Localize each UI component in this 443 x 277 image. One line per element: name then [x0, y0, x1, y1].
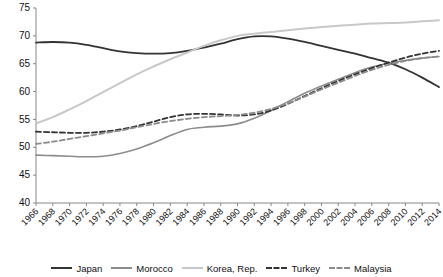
legend-label: Korea, Rep.: [207, 264, 258, 274]
x-axis-tick-label: 1998: [288, 206, 309, 227]
legend-swatch-japan: [51, 267, 72, 269]
x-axis-tick-label: 2010: [389, 206, 410, 227]
x-axis-tick-label: 1974: [86, 206, 107, 227]
x-axis-tick-label: 1968: [36, 206, 57, 227]
x-axis-tick-label: 2004: [338, 206, 359, 227]
legend-item[interactable]: Japan: [51, 264, 102, 274]
legend-item[interactable]: Korea, Rep.: [182, 264, 258, 274]
x-axis-tick-label: 2008: [372, 206, 393, 227]
series-line-japan: [36, 36, 439, 87]
x-axis-tick-label: 2000: [305, 206, 326, 227]
x-axis-tick-label: 2014: [422, 206, 443, 227]
y-axis-tick-label: 45: [19, 169, 31, 180]
x-axis-tick-label: 2002: [321, 206, 342, 227]
legend-item[interactable]: Turkey: [266, 264, 320, 274]
x-axis-tick-label: 1996: [271, 206, 292, 227]
series-line-korea-rep: [36, 20, 439, 123]
legend-swatch-morocco: [111, 267, 132, 269]
y-axis-tick-label: 65: [19, 58, 31, 69]
x-axis-tick-label: 1966: [19, 206, 40, 227]
legend-swatch-korea-rep: [182, 267, 203, 269]
legend-swatch-malaysia: [329, 267, 350, 269]
chart-plot-area: 4045505560657075196619681970197219741976…: [0, 0, 443, 277]
y-axis-tick-label: 60: [19, 86, 31, 97]
legend-label: Turkey: [291, 264, 320, 274]
x-axis-tick-label: 1994: [254, 206, 275, 227]
x-axis-tick-label: 1982: [154, 206, 175, 227]
y-axis-tick-label: 75: [19, 2, 31, 13]
x-axis-tick-label: 1978: [120, 206, 141, 227]
x-axis-tick-label: 1984: [170, 206, 191, 227]
chart-legend: JapanMoroccoKorea, Rep.TurkeyMalaysia: [0, 264, 443, 274]
x-axis-tick-label: 1986: [187, 206, 208, 227]
legend-label: Morocco: [136, 264, 172, 274]
legend-swatch-turkey: [266, 267, 287, 269]
series-line-malaysia: [36, 56, 439, 143]
legend-label: Malaysia: [354, 264, 392, 274]
y-axis-tick-label: 70: [19, 30, 31, 41]
x-axis-tick-label: 1980: [137, 206, 158, 227]
x-axis-tick-label: 1972: [70, 206, 91, 227]
x-axis-tick-label: 1988: [204, 206, 225, 227]
legend-label: Japan: [76, 264, 102, 274]
y-axis-tick-label: 50: [19, 141, 31, 152]
x-axis-tick-label: 1976: [103, 206, 124, 227]
legend-item[interactable]: Malaysia: [329, 264, 392, 274]
y-axis-tick-label: 40: [19, 197, 31, 208]
series-line-morocco: [36, 56, 439, 156]
x-axis-tick-label: 2012: [405, 206, 426, 227]
x-axis-tick-label: 1992: [237, 206, 258, 227]
line-chart: 4045505560657075196619681970197219741976…: [0, 0, 443, 277]
x-axis-tick-label: 1970: [53, 206, 74, 227]
x-axis-tick-label: 2006: [355, 206, 376, 227]
legend-item[interactable]: Morocco: [111, 264, 172, 274]
y-axis-tick-label: 55: [19, 114, 31, 125]
series-line-turkey: [36, 51, 439, 133]
x-axis-tick-label: 1990: [221, 206, 242, 227]
